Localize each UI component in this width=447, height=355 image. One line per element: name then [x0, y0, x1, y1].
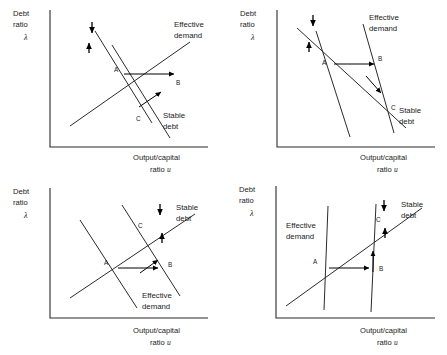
y-axis-label-lambda: λ: [23, 33, 28, 42]
label-stable-debt-line1: Stable: [401, 200, 423, 209]
point-label-c-panel-1: C: [136, 115, 141, 122]
curve-effective-demand-initial-panel-3: [80, 220, 137, 308]
curve-stable-debt-shifted-panel-1: [95, 31, 152, 123]
point-label-a-panel-1: A: [114, 66, 119, 73]
y-axis-label-lambda: λ: [249, 209, 254, 218]
curve-effective-demand-initial-panel-4: [324, 206, 328, 310]
x-axis-label-line2: ratio u: [150, 338, 171, 347]
curve-stable-debt-initial-panel-1: [112, 45, 170, 138]
label-stable-debt-line1: Stable: [163, 111, 185, 120]
curve-stable-debt-panel-2: [297, 28, 406, 128]
point-label-c-panel-2: C: [391, 104, 396, 111]
y-axis-label-line2: ratio: [240, 20, 255, 29]
panel-bottom-right: Debt ratio λ Output/capital ratio u Effe…: [224, 178, 447, 355]
panel-top-left: Debt ratio λ Output/capital ratio u Effe…: [0, 0, 223, 177]
point-label-a-panel-3: A: [104, 259, 109, 266]
point-label-c-panel-3: C: [138, 222, 143, 229]
point-label-c-panel-4: C: [376, 216, 381, 223]
label-stable-debt-line2: debt: [401, 211, 417, 220]
y-axis-label-lambda: λ: [250, 33, 255, 42]
label-effective-demand-line1: Effective: [369, 13, 399, 22]
label-effective-demand-line1: Effective: [174, 20, 204, 29]
point-label-a-panel-2: A: [322, 59, 327, 66]
four-panel-economics-figure: Debt ratio λ Output/capital ratio u Effe…: [0, 0, 447, 355]
y-axis-label-line1: Debt: [13, 9, 30, 18]
label-stable-debt-line1: Stable: [176, 203, 198, 212]
x-axis-label-line2: ratio u: [377, 338, 398, 347]
point-label-b-panel-2: B: [378, 55, 382, 62]
panel-top-right: Debt ratio λ Output/capital ratio u Effe…: [224, 0, 447, 177]
label-effective-demand-line2: demand: [142, 302, 170, 311]
y-axis-label-line2: ratio: [239, 196, 254, 205]
curve-effective-demand-initial-panel-2: [316, 31, 350, 137]
label-effective-demand-line1: Effective: [286, 221, 316, 230]
x-axis-label-line2: ratio u: [150, 165, 171, 174]
point-label-a-panel-4: A: [313, 258, 318, 265]
curve-effective-demand-shifted-panel-3: [122, 205, 180, 296]
label-stable-debt-line1: Stable: [399, 106, 421, 115]
label-stable-debt-line2: debt: [163, 122, 179, 131]
y-axis-label-lambda: λ: [23, 211, 28, 220]
motion-arrow-along-curve-panel-3: [140, 260, 158, 273]
label-stable-debt-line2: debt: [399, 117, 415, 126]
label-effective-demand-line2: demand: [174, 31, 202, 40]
x-axis-label-line1: Output/capital: [133, 326, 180, 335]
y-axis-label-line1: Debt: [13, 187, 30, 196]
x-axis-label-line1: Output/capital: [360, 153, 407, 162]
y-axis-label-line1: Debt: [239, 185, 256, 194]
x-axis-label-line1: Output/capital: [133, 153, 180, 162]
axes-panel-2: [277, 10, 435, 147]
label-effective-demand-line2: demand: [286, 232, 314, 241]
x-axis-label-line2: ratio u: [377, 165, 398, 174]
label-effective-demand-line2: demand: [369, 24, 397, 33]
point-label-b-panel-4: B: [379, 265, 383, 272]
label-stable-debt-line2: debt: [176, 214, 192, 223]
point-label-b-panel-3: B: [168, 261, 172, 268]
y-axis-label-line2: ratio: [13, 20, 28, 29]
label-effective-demand-line1: Effective: [142, 291, 172, 300]
y-axis-label-line1: Debt: [240, 9, 257, 18]
point-label-b-panel-1: B: [176, 79, 180, 86]
panel-bottom-left: Debt ratio λ Output/capital ratio u Effe…: [0, 178, 223, 355]
x-axis-label-line1: Output/capital: [360, 326, 407, 335]
y-axis-label-line2: ratio: [13, 198, 28, 207]
curve-stable-debt-panel-3: [70, 214, 195, 298]
